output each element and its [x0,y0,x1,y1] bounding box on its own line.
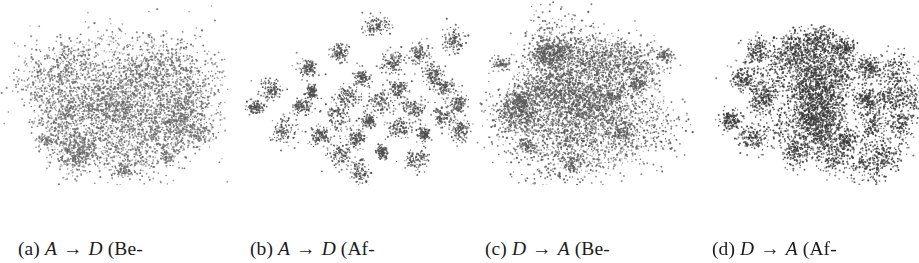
caption-b-label: (b) [250,238,273,259]
arrow-icon: → [531,238,553,259]
caption-panel-d: (d) D → A (Af- ter Adaptation) [712,186,837,263]
caption-panel-b: (b) A → D (Af- ter Adaptation) [250,186,375,263]
caption-a-source: A [45,238,57,259]
scatter-canvas-b [240,0,470,185]
caption-c-target: A [558,238,570,259]
tsne-figure-grid: (a) A → D (Be- fore Adaptation) (b) A → … [0,0,919,263]
scatter-panel-a [0,0,230,185]
caption-d-target: A [786,238,798,259]
caption-c-source: D [512,238,526,259]
arrow-icon: → [62,238,84,259]
scatter-panel-d [690,0,919,185]
arrow-icon: → [295,238,317,259]
arrow-icon: → [759,238,781,259]
scatter-canvas-d [690,0,919,185]
caption-d-label: (d) [712,238,735,259]
caption-panel-a: (a) A → D (Be- fore Adaptation) [18,186,148,263]
caption-b-target: D [322,238,336,259]
caption-c-line1: (c) D → A (Be- [485,236,615,261]
caption-a-target: D [89,238,103,259]
caption-a-label: (a) [18,238,40,259]
scatter-canvas-c [470,0,700,185]
caption-b-source: A [278,238,290,259]
caption-c-label: (c) [485,238,507,259]
caption-b-line1: (b) A → D (Af- [250,236,375,261]
caption-panel-c: (c) D → A (Be- fore Adaptation) [485,186,615,263]
caption-d-source: D [740,238,754,259]
scatter-panel-b [240,0,470,185]
caption-a-line1: (a) A → D (Be- [18,236,148,261]
scatter-panel-c [470,0,700,185]
caption-d-line1: (d) D → A (Af- [712,236,837,261]
scatter-canvas-a [0,0,230,185]
